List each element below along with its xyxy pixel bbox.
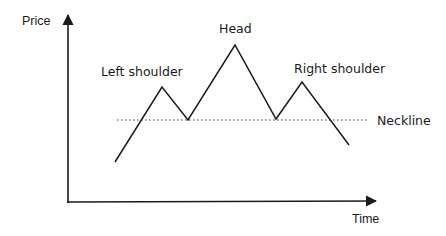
x-axis-label: Time: [352, 212, 379, 226]
neckline-label: Neckline: [377, 113, 431, 128]
head-and-shoulders-diagram: Price Time Left shoulder Head Right shou…: [0, 0, 446, 236]
head-label: Head: [219, 21, 252, 36]
left-shoulder-label: Left shoulder: [101, 64, 184, 79]
right-shoulder-label: Right shoulder: [294, 61, 386, 76]
y-axis-label: Price: [22, 14, 51, 28]
x-axis: [67, 201, 376, 202]
